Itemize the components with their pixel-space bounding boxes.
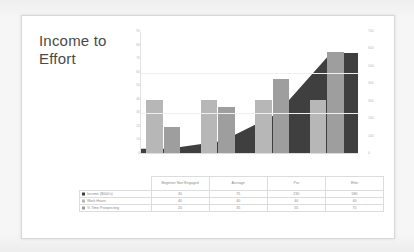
table-column-header: Pro xyxy=(267,177,325,191)
income-swatch-icon xyxy=(82,193,85,196)
right-axis-tick: 0 xyxy=(358,152,394,155)
series-legend-work-hours: Work Hours xyxy=(80,198,152,205)
chart-plot-area xyxy=(140,32,358,154)
table-cell: 55 xyxy=(267,205,325,212)
chart-bar xyxy=(201,100,217,154)
combo-chart: 9080706050403020100700600500400300200100… xyxy=(126,28,384,178)
chart-gridline xyxy=(141,113,358,114)
series-legend-prospecting: % Time Prospecting xyxy=(80,205,152,212)
chart-gridline xyxy=(141,73,358,74)
left-axis-tick: 60 xyxy=(126,71,140,74)
table-cell: 75 xyxy=(325,205,383,212)
left-axis-tick: 50 xyxy=(126,84,140,87)
table-cell: 40 xyxy=(267,198,325,205)
presentation-slide: Income to Effort 90807060504030201007006… xyxy=(21,15,395,239)
right-axis-tick: 200 xyxy=(358,117,394,120)
left-axis-tick: 0 xyxy=(126,152,140,155)
left-axis-tick: 90 xyxy=(126,30,140,33)
right-axis-tick: 600 xyxy=(358,47,394,50)
category-axis-line xyxy=(141,153,358,154)
table-cell: 75 xyxy=(209,191,267,198)
table-cell: 20 xyxy=(151,205,209,212)
left-axis-tick: 30 xyxy=(126,111,140,114)
series-label: % Time Prospecting xyxy=(87,206,119,210)
table-cell: 580 xyxy=(325,191,383,198)
table-row: Income ($000's) 30 75 230 580 xyxy=(80,191,384,198)
table-column-header: Beginner Non Engaged xyxy=(151,177,209,191)
slide-photo-canvas: Income to Effort 90807060504030201007006… xyxy=(0,0,414,252)
chart-bar xyxy=(273,79,289,154)
table-corner-cell xyxy=(80,177,152,191)
chart-bar xyxy=(146,100,162,154)
table-header-row: Beginner Non Engaged Average Pro Elite xyxy=(80,177,384,191)
series-label: Income ($000's) xyxy=(87,192,113,196)
table-cell: 35 xyxy=(209,205,267,212)
chart-bar xyxy=(164,127,180,154)
series-label: Work Hours xyxy=(87,199,106,203)
chart-bar xyxy=(255,100,271,154)
right-axis-tick: 100 xyxy=(358,135,394,138)
series-legend-income: Income ($000's) xyxy=(80,191,152,198)
table-cell: 40 xyxy=(151,198,209,205)
table-row: Work Hours 40 40 40 40 xyxy=(80,198,384,205)
left-axis-tick: 70 xyxy=(126,57,140,60)
left-axis-tick: 20 xyxy=(126,125,140,128)
right-axis-tick: 300 xyxy=(358,100,394,103)
table-column-header: Elite xyxy=(325,177,383,191)
left-axis-tick: 40 xyxy=(126,98,140,101)
table-column-header: Average xyxy=(209,177,267,191)
chart-bar xyxy=(310,100,326,154)
left-axis-tick: 10 xyxy=(126,138,140,141)
right-axis-tick: 500 xyxy=(358,65,394,68)
chart-bar xyxy=(327,52,343,154)
table-cell: 30 xyxy=(151,191,209,198)
table-cell: 40 xyxy=(209,198,267,205)
table-body: Income ($000's) 30 75 230 580 Work Hours… xyxy=(80,191,384,212)
chart-data-table: Beginner Non Engaged Average Pro Elite I… xyxy=(79,176,384,212)
right-axis-tick: 700 xyxy=(358,30,394,33)
left-axis-tick: 80 xyxy=(126,44,140,47)
table-row: % Time Prospecting 20 35 55 75 xyxy=(80,205,384,212)
right-axis-tick: 400 xyxy=(358,82,394,85)
prospecting-swatch-icon xyxy=(82,207,85,210)
table-cell: 40 xyxy=(325,198,383,205)
work-hours-swatch-icon xyxy=(82,200,85,203)
table-cell: 230 xyxy=(267,191,325,198)
